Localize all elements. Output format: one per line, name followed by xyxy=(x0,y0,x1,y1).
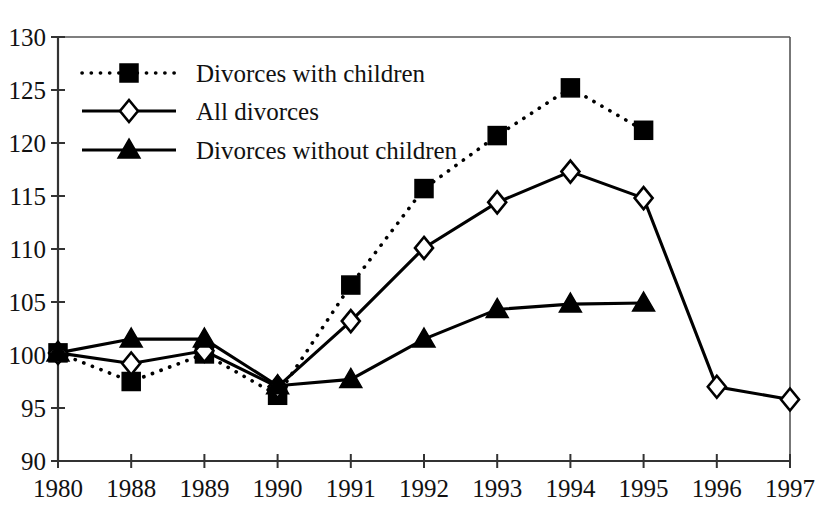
x-axis-tick-label: 1990 xyxy=(253,475,303,502)
series-line-all-divorces xyxy=(58,172,790,400)
legend-label: Divorces without children xyxy=(196,137,458,164)
y-axis-tick-label: 110 xyxy=(9,236,46,263)
marker-filled-square-icon xyxy=(120,64,138,82)
marker-open-diamond-icon xyxy=(561,161,579,183)
x-axis-tick-label: 1997 xyxy=(765,475,815,502)
marker-open-diamond-icon xyxy=(120,100,138,122)
marker-filled-triangle-icon xyxy=(340,368,362,387)
legend-label: All divorces xyxy=(196,98,319,125)
x-axis-tick-label: 1991 xyxy=(326,475,376,502)
y-axis-tick-label: 130 xyxy=(9,24,47,51)
chart-page: 9095100105110115120125130 19801988198919… xyxy=(0,0,824,523)
y-axis-tick-label: 125 xyxy=(9,77,47,104)
series-markers xyxy=(47,79,799,411)
marker-filled-triangle-icon xyxy=(633,292,655,311)
marker-open-diamond-icon xyxy=(708,376,726,398)
series-line-divorces-with-children xyxy=(58,88,644,395)
marker-open-diamond-icon xyxy=(488,191,506,213)
marker-open-diamond-icon xyxy=(781,389,799,411)
marker-filled-square-icon xyxy=(415,180,433,198)
x-axis-tick-label: 1988 xyxy=(106,475,156,502)
marker-open-diamond-icon xyxy=(635,187,653,209)
y-axis-tick-labels: 9095100105110115120125130 xyxy=(9,24,47,475)
x-axis-tick-label: 1989 xyxy=(179,475,229,502)
y-axis-tick-label: 90 xyxy=(21,448,46,475)
marker-filled-square-icon xyxy=(635,121,653,139)
line-chart: 9095100105110115120125130 19801988198919… xyxy=(0,0,824,523)
legend-entry: Divorces with children xyxy=(82,60,426,87)
marker-open-diamond-icon xyxy=(122,352,140,374)
chart-legend: Divorces with childrenAll divorcesDivorc… xyxy=(82,60,458,164)
x-axis-tick-label: 1994 xyxy=(545,475,596,502)
x-axis-tick-label: 1993 xyxy=(472,475,522,502)
marker-filled-square-icon xyxy=(488,127,506,145)
x-axis-tick-label: 1995 xyxy=(619,475,669,502)
legend-entry: Divorces without children xyxy=(82,137,458,164)
y-axis-tick-label: 115 xyxy=(9,183,46,210)
y-axis-tick-label: 95 xyxy=(21,395,46,422)
x-axis-tick-label: 1980 xyxy=(33,475,83,502)
legend-label: Divorces with children xyxy=(196,60,426,87)
x-axis-tick-labels: 1980198819891990199119921993199419951996… xyxy=(33,475,815,502)
y-axis-tick-label: 100 xyxy=(9,342,47,369)
x-axis-tick-label: 1996 xyxy=(692,475,742,502)
legend-entry: All divorces xyxy=(82,98,319,125)
y-axis-tick-label: 105 xyxy=(9,289,47,316)
marker-filled-square-icon xyxy=(561,79,579,97)
marker-filled-square-icon xyxy=(342,276,360,294)
y-axis-tick-label: 120 xyxy=(9,130,47,157)
x-axis-tick-label: 1992 xyxy=(399,475,449,502)
